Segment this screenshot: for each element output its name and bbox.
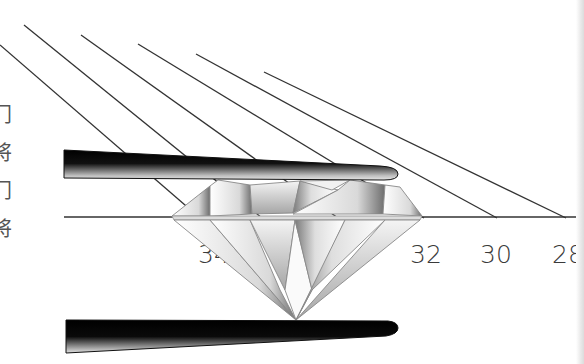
diamond-angle-diagram: 34 32 30 28: [0, 0, 584, 364]
crown-facet: [210, 180, 252, 216]
tweezer-bottom: [66, 320, 398, 353]
crown-facet: [172, 186, 210, 216]
angle-label-32: 32: [410, 240, 442, 269]
right-edge-fade: [576, 0, 584, 364]
angle-line-1: [0, 45, 200, 218]
girdle: [172, 216, 422, 220]
crown-facet: [383, 185, 422, 216]
tweezer-top: [64, 150, 398, 180]
angle-label-30: 30: [480, 240, 512, 269]
crown-facet: [250, 181, 300, 214]
